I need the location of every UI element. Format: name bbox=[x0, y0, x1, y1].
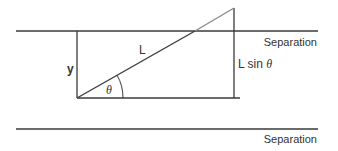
separation-geometry-diagram: Separation Separation y L sin θ L θ bbox=[0, 0, 338, 151]
L-label: L bbox=[139, 43, 146, 57]
top-separation-label: Separation bbox=[264, 36, 317, 48]
lsin-prefix: L sin bbox=[238, 57, 266, 71]
lsin-label: L sin θ bbox=[238, 57, 272, 71]
theta-label: θ bbox=[106, 83, 112, 97]
hypotenuse-upper bbox=[195, 8, 234, 31]
bottom-separation-label: Separation bbox=[264, 133, 317, 145]
lsin-theta: θ bbox=[266, 57, 272, 71]
hypotenuse-lower bbox=[77, 31, 195, 98]
theta-arc bbox=[117, 75, 123, 98]
y-label: y bbox=[67, 62, 74, 76]
